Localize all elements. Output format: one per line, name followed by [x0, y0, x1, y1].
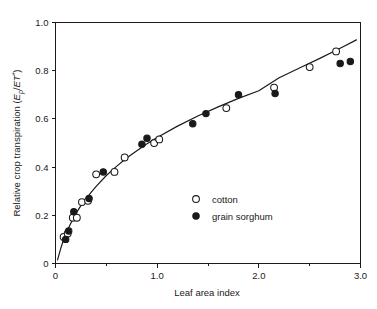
axis-lines: [56, 23, 361, 264]
legend: cotton grain sorghum: [193, 194, 273, 222]
data-point: [139, 141, 145, 147]
plot-frame: [56, 23, 361, 264]
data-point: [121, 154, 128, 161]
data-point: [144, 135, 150, 141]
x-tick-label: 3.0: [354, 270, 367, 281]
data-point: [333, 48, 340, 55]
svg-text:Relative crop transpiration (E: Relative crop transpiration (Ep/ET*): [11, 69, 25, 216]
frame-top-right: [56, 23, 361, 264]
y-tick-label: 0.8: [35, 65, 48, 76]
data-point: [86, 195, 92, 201]
y-tick-label: 0.4: [35, 162, 48, 173]
data-point: [93, 171, 100, 178]
data-point: [71, 208, 77, 214]
data-point: [156, 136, 163, 143]
legend-marker-grain-sorghum: [193, 213, 199, 219]
fitted-curve: [58, 40, 357, 260]
y-axis-title: Relative crop transpiration (Ep/ET*): [11, 69, 25, 216]
x-tick-label: 1.0: [151, 270, 164, 281]
data-point: [306, 64, 313, 71]
x-tick-label: 2.0: [252, 270, 265, 281]
y-tick-label: 0.2: [35, 210, 48, 221]
data-point: [62, 236, 68, 242]
data-point: [190, 121, 196, 127]
data-point: [111, 169, 118, 176]
data-point: [337, 60, 343, 66]
data-point: [66, 228, 72, 234]
y-tick-label: 0: [43, 258, 48, 269]
data-point: [271, 84, 278, 91]
data-point: [203, 110, 209, 116]
data-point: [235, 92, 241, 98]
y-title-prefix: Relative crop transpiration (: [11, 100, 22, 217]
legend-marker-cotton: [193, 196, 200, 203]
data-point: [347, 58, 353, 64]
data-point: [272, 90, 278, 96]
legend-label-grain-sorghum: grain sorghum: [212, 211, 273, 222]
chart-figure: 00.20.40.60.81.0 01.02.03.0 Leaf area in…: [0, 0, 377, 309]
y-tick-label: 1.0: [35, 17, 48, 28]
data-point: [100, 169, 106, 175]
data-point: [223, 105, 230, 112]
y-axis-ticks: 00.20.40.60.81.0: [35, 17, 55, 269]
x-axis-ticks: 01.02.03.0: [53, 264, 367, 281]
x-axis-title: Leaf area index: [174, 287, 240, 298]
legend-label-cotton: cotton: [212, 194, 238, 205]
series-cotton: [60, 48, 339, 240]
scatter-plot-svg: 00.20.40.60.81.0 01.02.03.0 Leaf area in…: [0, 0, 377, 309]
series-grain-sorghum: [62, 58, 353, 242]
y-tick-label: 0.6: [35, 113, 48, 124]
y-title-suffix: ): [11, 69, 22, 72]
x-tick-label: 0: [53, 270, 58, 281]
